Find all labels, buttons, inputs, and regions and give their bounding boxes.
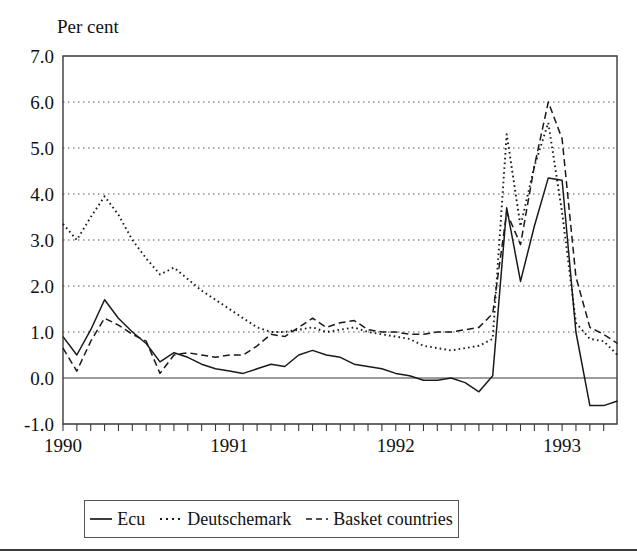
legend-item-basket-countries: Basket countries [306,509,452,530]
x-tick-label: 1993 [543,435,581,456]
x-tick-labels: 1990199119921993 [44,435,581,456]
x-tick-label: 1991 [210,435,248,456]
legend-label: Ecu [117,509,145,530]
series-line-basket-countries [63,102,618,373]
legend-swatch-solid [90,514,112,524]
series-line-ecu [63,178,618,406]
series-line-deutschemark [63,123,618,355]
y-tick-labels: 7.06.05.04.03.02.01.00.0-1.0 [24,46,54,435]
legend-swatch-dashed [306,514,328,524]
y-tick-label: 2.0 [30,276,54,297]
chart-legend: EcuDeutschemarkBasket countries [84,500,459,538]
legend-swatch-dotted [160,514,182,524]
chart-figure: Per cent 7.06.05.04.03.02.01.00.0-1.0 19… [0,0,637,552]
legend-item-deutschemark: Deutschemark [160,509,291,530]
y-tick-label: 4.0 [30,184,54,205]
legend-label: Deutschemark [187,509,291,530]
x-tick-label: 1990 [44,435,82,456]
grid-lines [63,102,617,332]
y-tick-label: 1.0 [30,322,54,343]
y-tick-label: 7.0 [30,46,54,67]
legend-item-ecu: Ecu [90,509,145,530]
legend-label: Basket countries [333,509,452,530]
x-minor-ticks [63,424,604,431]
y-tick-label: 3.0 [30,230,54,251]
y-tick-label: 5.0 [30,138,54,159]
x-tick-label: 1992 [377,435,415,456]
bottom-rule-divider [0,549,637,551]
y-tick-label: 0.0 [30,368,54,389]
line-chart-plot: 7.06.05.04.03.02.01.00.0-1.0 19901991199… [0,0,637,500]
y-tick-label: -1.0 [24,414,54,435]
y-tick-label: 6.0 [30,92,54,113]
